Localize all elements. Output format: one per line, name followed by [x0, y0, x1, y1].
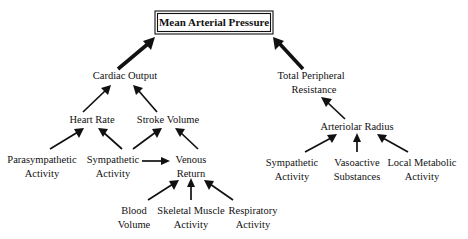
node-label-vasoactive-line2: Substances [334, 171, 381, 182]
node-label-local-metabolic-line2: Activity [405, 171, 440, 182]
node-label-vasoactive-line1: Vasoactive [334, 157, 380, 168]
edge-sympathetic-to-heart-rate [98, 128, 122, 149]
node-mean-arterial-pressure[interactable]: Mean Arterial Pressure [155, 11, 273, 34]
node-label-total-peripheral-resistance-line1: Total Peripheral [277, 70, 344, 81]
node-label-sympathetic-left-line2: Activity [96, 168, 131, 179]
node-stroke-volume[interactable]: Stroke Volume [137, 114, 200, 125]
edge-parasympathetic-to-heart-rate [50, 128, 84, 149]
node-label-venous-return-line2: Return [177, 168, 206, 179]
node-label-venous-return-line1: Venous [176, 154, 207, 165]
edge-sympathetic-to-venous-return [142, 157, 170, 165]
node-label-parasympathetic-line1: Parasympathetic [7, 154, 77, 165]
edge-arteriolar-radius-to-tpr [321, 97, 345, 119]
edge-vasoactive-to-arteriolar-radius [353, 133, 361, 152]
edge-local-metabolic-to-arteriolar-radius [377, 134, 408, 152]
edge-respiratory-to-venous-return [204, 180, 233, 200]
node-heart-rate[interactable]: Heart Rate [69, 114, 115, 125]
node-local-metabolic-activity[interactable]: Local Metabolic Activity [387, 157, 456, 182]
node-label-local-metabolic-line1: Local Metabolic [387, 157, 456, 168]
node-label-cardiac-output: Cardiac Output [93, 70, 158, 81]
node-skeletal-muscle-activity[interactable]: Skeletal Muscle Activity [157, 205, 225, 230]
edge-heart-rate-to-cardiac-output [83, 85, 111, 112]
node-label-respiratory-line2: Activity [236, 219, 271, 230]
edge-blood-volume-to-venous-return [148, 180, 179, 200]
node-label-respiratory-line1: Respiratory [229, 205, 279, 216]
node-label-mean-arterial-pressure: Mean Arterial Pressure [159, 16, 269, 28]
node-label-skeletal-muscle-line2: Activity [174, 219, 209, 230]
node-label-sympathetic-right-line1: Sympathetic [266, 157, 319, 168]
edge-sympathetic-right-to-arteriolar-radius [305, 134, 337, 152]
edge-tpr-to-map [273, 37, 303, 69]
node-total-peripheral-resistance[interactable]: Total Peripheral Resistance [277, 70, 344, 95]
node-label-heart-rate: Heart Rate [69, 114, 115, 125]
node-respiratory-activity[interactable]: Respiratory Activity [229, 205, 279, 230]
node-label-blood-volume-line1: Blood [121, 205, 147, 216]
node-cardiac-output[interactable]: Cardiac Output [93, 70, 158, 81]
diagram-canvas: Mean Arterial Pressure Cardiac Output To… [0, 0, 468, 239]
edge-venous-return-to-stroke-volume [175, 128, 198, 149]
node-label-arteriolar-radius: Arteriolar Radius [320, 121, 393, 132]
node-label-skeletal-muscle-line1: Skeletal Muscle [157, 205, 225, 216]
node-label-parasympathetic-line2: Activity [25, 168, 60, 179]
node-arteriolar-radius[interactable]: Arteriolar Radius [320, 121, 393, 132]
node-sympathetic-activity-right[interactable]: Sympathetic Activity [266, 157, 319, 182]
edge-stroke-volume-to-cardiac-output [133, 85, 157, 112]
node-sympathetic-activity-left[interactable]: Sympathetic Activity [87, 154, 140, 179]
node-label-blood-volume-line2: Volume [118, 219, 151, 230]
edge-skeletal-muscle-to-venous-return [187, 178, 195, 200]
node-parasympathetic-activity[interactable]: Parasympathetic Activity [7, 154, 77, 179]
node-label-total-peripheral-resistance-line2: Resistance [292, 84, 337, 95]
node-venous-return[interactable]: Venous Return [176, 154, 207, 179]
edge-sympathetic-to-stroke-volume [133, 128, 162, 149]
node-label-sympathetic-left-line1: Sympathetic [87, 154, 140, 165]
edge-cardiac-output-to-map [118, 37, 155, 69]
node-vasoactive-substances[interactable]: Vasoactive Substances [334, 157, 381, 182]
flowchart-diagram: Mean Arterial Pressure Cardiac Output To… [0, 0, 468, 239]
node-blood-volume[interactable]: Blood Volume [118, 205, 151, 230]
node-label-stroke-volume: Stroke Volume [137, 114, 200, 125]
node-label-sympathetic-right-line2: Activity [275, 171, 310, 182]
